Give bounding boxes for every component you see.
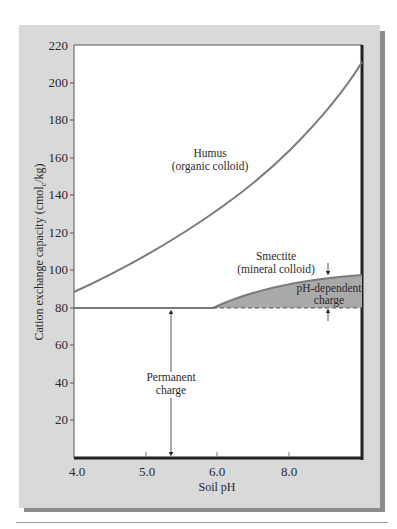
y-ticks: [70, 83, 74, 420]
y-axis-title: Cation exchange capacity (cmolc/kg): [32, 163, 48, 340]
plot-area: [74, 45, 362, 458]
y-tick-label: 100: [49, 262, 69, 277]
y-tick-label: 220: [49, 38, 69, 53]
x-axis-title: Soil pH: [198, 480, 235, 494]
svg-text:(mineral colloid): (mineral colloid): [237, 263, 315, 276]
y-tick-label: 20: [55, 412, 68, 427]
y-tick-label: 160: [49, 150, 69, 165]
y-tick-label: 60: [55, 337, 68, 352]
y-tick-label: 40: [55, 375, 68, 390]
y-tick-label: 140: [49, 187, 69, 202]
svg-text:Permanent: Permanent: [146, 371, 196, 383]
cec-chart: 20 40 60 80 100 120 140 160 180 200 220 …: [0, 0, 397, 529]
y-tick-label: 80: [55, 300, 68, 315]
x-tick-label: 4.0: [69, 464, 85, 479]
svg-text:(organic colloid): (organic colloid): [172, 160, 249, 173]
y-tick-label: 120: [49, 225, 69, 240]
svg-text:charge: charge: [156, 384, 186, 397]
x-tick-label: 6.0: [209, 464, 225, 479]
svg-text:Humus: Humus: [193, 147, 227, 159]
svg-text:Smectite: Smectite: [256, 250, 296, 262]
y-tick-label: 180: [49, 112, 69, 127]
x-tick-labels: 4.0 5.0 6.0 8.0: [69, 464, 297, 479]
x-tick-label: 8.0: [281, 464, 297, 479]
x-tick-label: 5.0: [139, 464, 155, 479]
svg-text:charge: charge: [314, 294, 344, 307]
y-tick-labels: 20 40 60 80 100 120 140 160 180 200 220: [49, 38, 69, 427]
y-tick-label: 200: [49, 75, 69, 90]
